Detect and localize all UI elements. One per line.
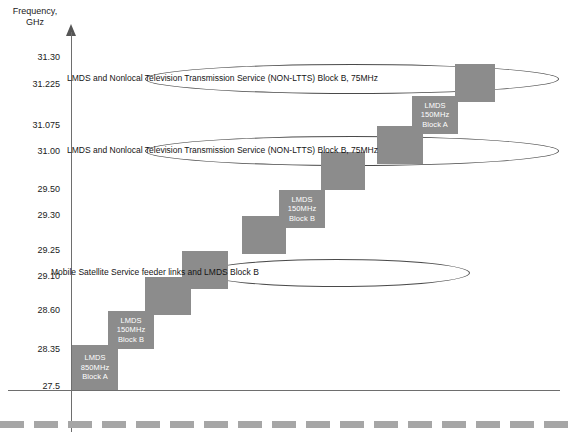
block-label-line: 150MHz	[117, 325, 146, 335]
block-label-line: LMDS	[291, 195, 312, 205]
block-label-line: LMDS	[120, 316, 141, 326]
ellipse-non-ltts-top	[145, 64, 559, 94]
frequency-block-step-blank-2	[182, 251, 228, 289]
bottom-dashed-rule	[0, 421, 568, 428]
frequency-block-step-blank-4	[321, 152, 365, 190]
y-axis-tick-label: 27.5	[10, 381, 60, 391]
frequency-allocation-diagram: Frequency, GHz 31.3031.22531.07531.0029.…	[0, 0, 568, 441]
block-label-line: 150MHz	[288, 204, 317, 214]
y-axis-title: Frequency, GHz	[4, 6, 66, 28]
block-label-line: LMDS	[424, 101, 445, 111]
block-label-line: 150MHz	[421, 110, 450, 120]
y-axis-tick-label: 28.35	[10, 344, 60, 354]
y-axis-tick-label: 31.075	[10, 120, 60, 130]
frequency-block-lmds-b-150-mid: LMDS150MHzBlock B	[279, 190, 325, 228]
block-label-line: Block B	[289, 214, 315, 224]
y-axis-tick-label: 29.30	[10, 210, 60, 220]
block-label-line: 850MHz	[81, 363, 110, 373]
frequency-block-lmds-a-850: LMDS850MHzBlock A	[72, 345, 118, 390]
block-label-line: Block A	[422, 120, 448, 130]
x-axis-line	[8, 390, 560, 391]
y-axis-tick-label: 29.10	[10, 271, 60, 281]
frequency-block-lmds-b-150-low: LMDS150MHzBlock B	[108, 311, 154, 349]
y-axis-tick-label: 29.50	[10, 184, 60, 194]
y-axis-title-line2: GHz	[4, 17, 66, 28]
block-label-line: Block B	[118, 335, 144, 345]
y-axis-title-line1: Frequency,	[13, 6, 57, 16]
block-label-line: Block A	[82, 372, 108, 382]
frequency-block-step-blank-6	[455, 64, 495, 102]
y-axis-tick-label: 28.60	[10, 305, 60, 315]
frequency-block-lmds-a-150: LMDS150MHzBlock A	[412, 96, 458, 134]
y-axis-tick-label: 31.225	[10, 79, 60, 89]
y-axis-tick-label: 31.00	[10, 146, 60, 156]
y-axis-tick-label: 31.30	[10, 52, 60, 62]
ellipse-mss-feeder	[203, 259, 470, 287]
y-axis-tick-label: 29.25	[10, 245, 60, 255]
block-label-line: LMDS	[84, 353, 105, 363]
